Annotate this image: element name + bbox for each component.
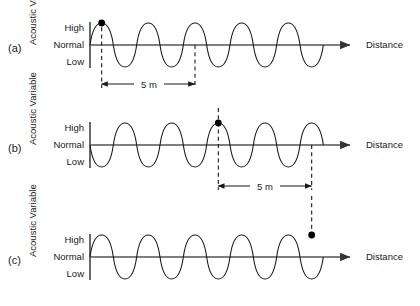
panel-a-y-axis-title: Acoustic Variable bbox=[27, 0, 38, 45]
panel-b: (b) Acoustic Variable High Normal Low 5 … bbox=[8, 72, 403, 192]
panel-c-tick-low: Low bbox=[67, 268, 85, 279]
panel-a-tick-high: High bbox=[64, 22, 84, 33]
panel-b-tick-low: Low bbox=[67, 156, 85, 167]
panel-a-tick-normal: Normal bbox=[53, 39, 84, 50]
panel-b-letter: (b) bbox=[8, 142, 21, 154]
panel-c-marker-dot bbox=[308, 232, 315, 239]
panel-a-marker-dot bbox=[98, 20, 105, 27]
panel-c-y-axis-title: Acoustic Variable bbox=[27, 184, 38, 257]
panel-b-y-axis-title: Acoustic Variable bbox=[27, 72, 38, 145]
panel-c-tick-normal: Normal bbox=[53, 251, 84, 262]
panel-c-tick-high: High bbox=[64, 234, 84, 245]
panel-c: (c) Acoustic Variable High Normal Low Di… bbox=[8, 184, 403, 280]
panel-c-x-axis-title: Distance bbox=[366, 251, 403, 262]
panel-a-dimension-label: 5 m bbox=[141, 79, 157, 90]
panel-b-tick-high: High bbox=[64, 122, 84, 133]
panel-b-dimension-label: 5 m bbox=[257, 181, 273, 192]
panel-a-x-axis-title: Distance bbox=[366, 39, 403, 50]
panel-a: (a) Acoustic Variable High Normal Low 5 … bbox=[8, 0, 403, 90]
panel-b-x-axis-title: Distance bbox=[366, 139, 403, 150]
panel-a-tick-low: Low bbox=[67, 56, 85, 67]
wave-diagram: (a) Acoustic Variable High Normal Low 5 … bbox=[0, 0, 420, 306]
figure-canvas: (a) Acoustic Variable High Normal Low 5 … bbox=[0, 0, 420, 306]
panel-c-letter: (c) bbox=[8, 254, 21, 266]
panel-b-tick-normal: Normal bbox=[53, 139, 84, 150]
panel-a-letter: (a) bbox=[8, 42, 21, 54]
panel-b-marker-dot bbox=[215, 120, 222, 127]
